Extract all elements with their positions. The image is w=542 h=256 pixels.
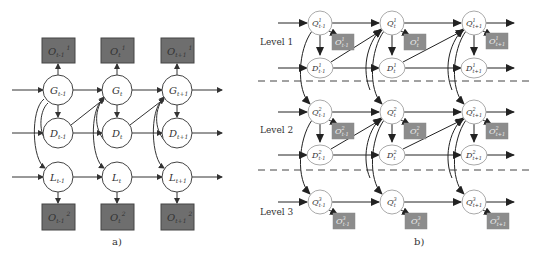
svg-text:D1t: D1t: [386, 62, 397, 74]
svg-text:D2t: D2t: [386, 149, 397, 161]
svg-text:O1t: O1t: [410, 36, 420, 48]
caption-a: a): [112, 236, 122, 247]
svg-text:Q1t: Q1t: [387, 17, 397, 29]
level-2-label: Level 2: [260, 125, 293, 135]
level-1-label: Level 1: [260, 37, 293, 47]
svg-text:O2t: O2t: [410, 125, 420, 137]
level-labels: Level 1 Level 2 Level 3: [260, 37, 293, 217]
diagram-canvas: Gt-1 Gt Gt+1 Dt-1 Dt Dt+1 Lt-1 Lt Lt+1 O…: [0, 0, 542, 256]
svg-text:Q2t: Q2t: [387, 106, 397, 118]
level-3-label: Level 3: [260, 207, 293, 217]
svg-text:O3t: O3t: [411, 215, 421, 227]
svg-text:Q3t: Q3t: [387, 196, 397, 208]
caption-b: b): [414, 236, 424, 247]
